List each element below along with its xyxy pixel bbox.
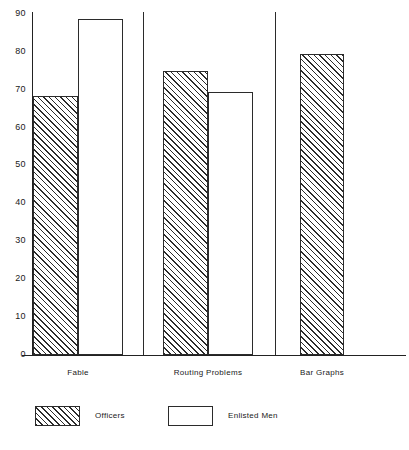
bar-enlisted-fable (78, 19, 123, 355)
legend-swatch-officers (35, 406, 80, 426)
x-category-label-routing-problems: Routing Problems (168, 368, 248, 378)
bar-chart: 90 80 70 60 50 40 30 20 10 0 Fable Routi… (0, 0, 409, 450)
group-divider-1 (143, 12, 144, 355)
legend-swatch-enlisted-men (168, 406, 213, 426)
plot-area: 90 80 70 60 50 40 30 20 10 0 Fable Routi… (0, 0, 409, 380)
x-category-label-fable: Fable (38, 368, 118, 378)
legend-label-officers: Officers (95, 406, 125, 426)
bar-officers-routing-problems (163, 71, 208, 355)
x-category-label-bar-graphs: Bar Graphs (282, 368, 362, 378)
chart-legend: Officers Enlisted Men (0, 398, 409, 450)
x-axis-line (22, 355, 406, 356)
bar-enlisted-routing-problems (208, 92, 253, 355)
bar-officers-fable (33, 96, 78, 355)
bar-officers-bar-graphs (300, 54, 344, 355)
group-divider-2 (275, 12, 276, 355)
legend-label-enlisted-men: Enlisted Men (228, 406, 278, 426)
bars-container (0, 0, 409, 355)
